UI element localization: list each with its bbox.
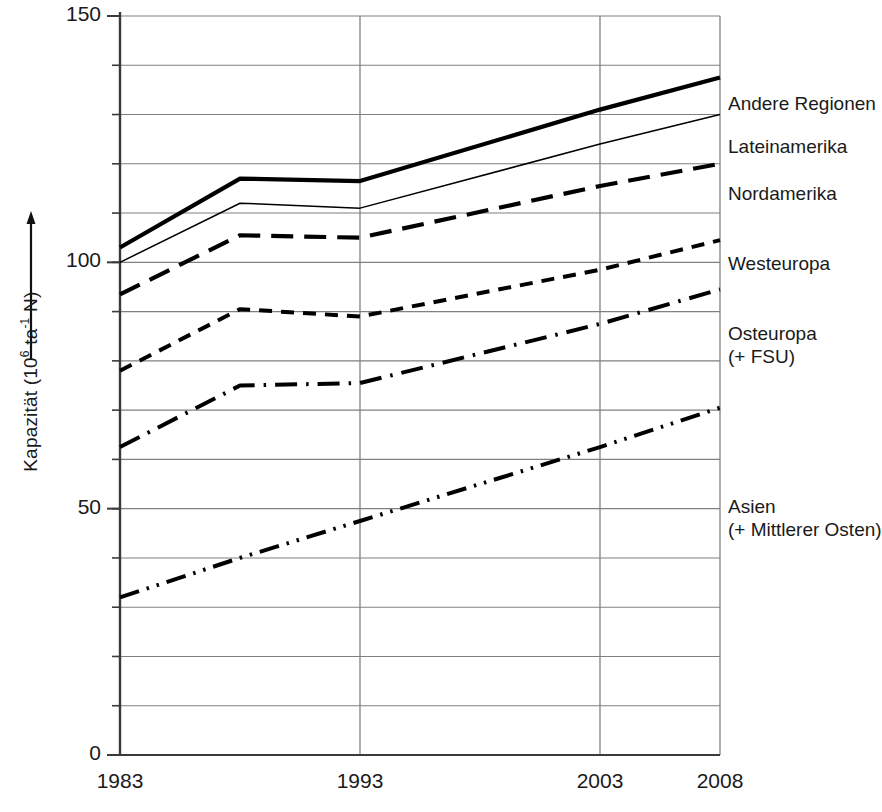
legend-label-5: Osteuropa(+ FSU) — [728, 322, 817, 368]
legend-label-line1: Asien — [728, 495, 882, 518]
series-line-1 — [120, 78, 720, 248]
y-axis-label: Kapazität (106 ta-1 N) — [18, 182, 41, 582]
y-tick-label: 0 — [41, 741, 101, 765]
gridlines — [120, 16, 720, 755]
legend-label-1: Andere Regionen — [728, 92, 876, 115]
legend-label-6: Asien(+ Mittlerer Osten) — [728, 495, 882, 541]
legend-label-line2: (+ FSU) — [728, 345, 817, 368]
y-axis-label-suffix: N) — [20, 292, 41, 318]
y-axis-label-mid: ta — [20, 329, 41, 351]
y-axis-label-exp2: -1 — [18, 318, 32, 329]
y-tick-label: 150 — [41, 2, 101, 26]
series-line-3 — [120, 164, 720, 295]
x-tick-label: 1983 — [75, 769, 165, 793]
x-tick-label: 1993 — [315, 769, 405, 793]
series-line-2 — [120, 115, 720, 263]
axes — [107, 12, 720, 755]
data-series — [120, 78, 720, 598]
legend-label-4: Westeuropa — [728, 252, 830, 275]
legend-label-line2: (+ Mittlerer Osten) — [728, 518, 882, 541]
series-line-4 — [120, 240, 720, 371]
y-axis-label-prefix: Kapazität (10 — [20, 357, 41, 472]
series-line-5 — [120, 289, 720, 447]
series-line-6 — [120, 408, 720, 598]
x-tick-label: 2008 — [675, 769, 765, 793]
legend-label-3: Nordamerika — [728, 182, 837, 205]
legend-label-2: Lateinamerika — [728, 135, 847, 158]
y-tick-label: 50 — [41, 495, 101, 519]
legend-label-line1: Osteuropa — [728, 322, 817, 345]
x-tick-label: 2003 — [555, 769, 645, 793]
y-tick-label: 100 — [41, 248, 101, 272]
y-axis-label-exp1: 6 — [18, 350, 32, 357]
y-axis-label-group: Kapazität (106 ta-1 N) — [0, 170, 60, 600]
